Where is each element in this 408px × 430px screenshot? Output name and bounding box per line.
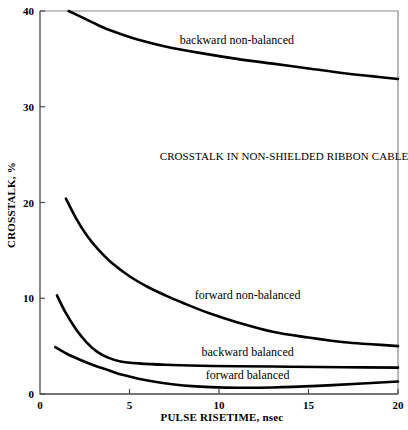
x-tick-label: 15: [303, 399, 315, 411]
series-label-forward-non-balanced: forward non-balanced: [195, 288, 301, 302]
y-tick-label: 0: [29, 388, 35, 400]
series-label-backward-non-balanced: backward non-balanced: [180, 33, 294, 47]
y-tick-label: 10: [23, 292, 35, 304]
series-label-forward-balanced: forward balanced: [206, 368, 290, 382]
x-tick-label: 20: [393, 399, 405, 411]
crosstalk-line-chart: 010203040 05101520 backward non-balanced…: [0, 0, 408, 430]
x-axis-title: PULSE RISETIME, nsec: [161, 411, 284, 423]
x-tick-label: 0: [37, 399, 43, 411]
y-tick-label: 40: [23, 5, 35, 17]
series-label-backward-balanced: backward balanced: [201, 345, 293, 359]
y-tick-label: 20: [23, 197, 35, 209]
x-tick-label: 5: [127, 399, 133, 411]
y-axis-title: CROSSTALK, %: [5, 162, 17, 248]
chart-container: 010203040 05101520 backward non-balanced…: [0, 0, 408, 430]
chart-title: CROSSTALK IN NON-SHIELDED RIBBON CABLE: [160, 150, 408, 162]
x-tick-label: 10: [214, 399, 226, 411]
y-tick-label: 30: [23, 101, 35, 113]
